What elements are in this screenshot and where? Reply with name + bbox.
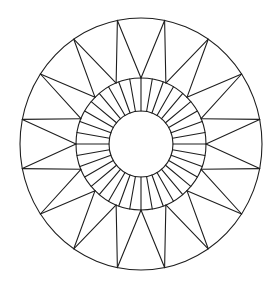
star-point-edge [22,119,81,120]
star-point-edge [201,169,260,170]
star-point-edge [201,119,260,120]
background [0,0,279,284]
star-point-edge [22,169,81,170]
mandala-star-drawing [0,0,279,284]
